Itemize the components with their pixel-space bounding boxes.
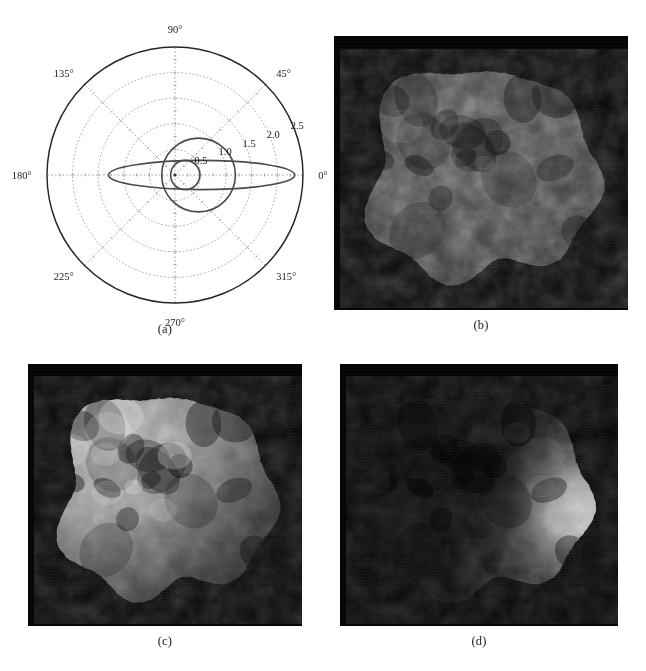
surface-highlight [475,155,495,171]
polar-angle-label-225: 225° [54,271,74,282]
polar-angle-label-45: 45° [276,68,291,79]
polar-minor-tick [237,111,239,113]
polar-angle-label-180: 180° [12,170,32,181]
figure-root: 0°45°90°135°180°225°270°315° 0.51.01.52.… [0,0,646,671]
render-frame-c [28,364,302,626]
subfigure-caption-d: (d) [340,634,618,649]
render-frame-d [340,364,618,626]
nucleus-render-b [334,36,628,310]
subfigure-caption-b: (b) [334,318,628,333]
polar-minor-tick [219,219,221,221]
subfigure-b: (b) [334,36,628,336]
polar-minor-tick [255,92,257,94]
angular-tick-labels: 0°45°90°135°180°225°270°315° [12,24,328,329]
polar-angle-label-315: 315° [276,271,296,282]
polar-minor-tick [92,92,94,94]
render-frame-b [334,36,628,310]
polar-angle-label-90: 90° [168,24,183,35]
polar-origin-dot [173,173,176,176]
subfigure-c: (c) [28,364,302,652]
polar-angle-label-0: 0° [318,170,327,181]
polar-minor-tick [219,129,221,131]
subfigure-caption-c: (c) [28,634,302,649]
polar-plot: 0°45°90°135°180°225°270°315° 0.51.01.52.… [0,0,330,330]
polar-minor-tick [92,255,94,257]
subfigure-caption-a: (a) [0,322,330,337]
polar-minor-tick [129,129,131,131]
polar-minor-tick [237,237,239,239]
polar-minor-tick [255,255,257,257]
polar-angle-label-135: 135° [54,68,74,79]
polar-radial-label-1.5: 1.5 [243,138,256,149]
radial-tick-labels: 0.51.01.52.02.5 [194,120,303,166]
nucleus-render-c [28,364,302,626]
surface-highlight [433,118,463,142]
polar-radial-label-2.5: 2.5 [291,120,304,131]
polar-radial-label-2: 2.0 [267,129,280,140]
polar-minor-tick [111,237,113,239]
polar-radial-label-0.5: 0.5 [194,155,207,166]
surface-highlight [435,156,467,182]
surface-highlight [381,110,423,144]
subfigure-d: (d) [340,364,618,652]
polar-radial-label-1: 1.0 [219,146,232,157]
polar-minor-tick [111,111,113,113]
subfigure-a: 0°45°90°135°180°225°270°315° 0.51.01.52.… [0,0,330,350]
nucleus-render-d [340,364,618,626]
polar-minor-tick [129,219,131,221]
